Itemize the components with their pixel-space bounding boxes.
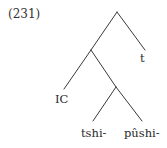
edge-n1-to-ic xyxy=(64,50,91,89)
leaf-label-t: t xyxy=(140,52,145,65)
edge-n1-to-n2 xyxy=(91,50,116,87)
edge-n2-to-pushi xyxy=(116,87,142,121)
leaf-label-pushi: pûshi- xyxy=(124,127,160,140)
edge-n2-to-tshi xyxy=(93,87,116,121)
edge-root-to-n1 xyxy=(91,12,117,50)
leaf-label-tshi: tshi- xyxy=(81,127,107,140)
edge-root-to-t xyxy=(117,12,145,50)
leaf-label-ic: IC xyxy=(55,93,68,106)
